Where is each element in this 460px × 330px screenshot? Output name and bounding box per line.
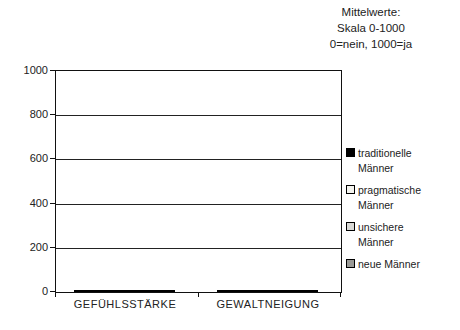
bar-pragmatische-m-nner-gef-hlsst-rke xyxy=(99,290,125,292)
bar-traditionelle-m-nner-gef-hlsst-rke xyxy=(74,290,100,292)
y-axis-tick-200 xyxy=(50,247,55,248)
legend-label-neue-m-nner: neue Männer xyxy=(358,257,436,272)
legend-item-pragmatische-m-nner: pragmatische Männer xyxy=(346,183,458,213)
y-axis-tick-label-400: 400 xyxy=(8,196,48,210)
chart-note-line-2: Skala 0-1000 xyxy=(315,20,427,36)
bar-group-gef-hlsst-rke xyxy=(74,290,175,292)
chart-figure: Mittelwerte: Skala 0-1000 0=nein, 1000=j… xyxy=(0,0,460,330)
legend-label-unsichere-m-nner: unsichere Männer xyxy=(358,220,436,250)
bar-group-gewaltneigung xyxy=(217,290,318,292)
bar-unsichere-m-nner-gewaltneigung xyxy=(267,290,293,292)
x-axis-tick-1 xyxy=(198,292,199,297)
legend-label-pragmatische-m-nner: pragmatische Männer xyxy=(358,183,436,213)
y-axis-tick-label-800: 800 xyxy=(8,107,48,121)
x-axis-tick-0 xyxy=(55,292,56,297)
legend-swatch-traditionelle-m-nner xyxy=(346,148,355,157)
legend-item-neue-m-nner: neue Männer xyxy=(346,257,458,272)
y-axis-tick-400 xyxy=(50,203,55,204)
y-gridline-200 xyxy=(56,248,341,249)
legend-swatch-unsichere-m-nner xyxy=(346,222,355,231)
y-axis-tick-label-600: 600 xyxy=(8,151,48,165)
bar-neue-m-nner-gef-hlsst-rke xyxy=(149,290,175,292)
chart-note-line-1: Mittelwerte: xyxy=(315,4,427,20)
chart-note: Mittelwerte: Skala 0-1000 0=nein, 1000=j… xyxy=(315,4,427,52)
legend-swatch-pragmatische-m-nner xyxy=(346,185,355,194)
plot-area xyxy=(55,70,342,293)
legend-item-unsichere-m-nner: unsichere Männer xyxy=(346,220,458,250)
y-axis-tick-800 xyxy=(50,114,55,115)
x-axis-tick-2 xyxy=(340,292,341,297)
legend: traditionelle Männerpragmatische Männeru… xyxy=(346,146,458,279)
y-gridline-800 xyxy=(56,115,341,116)
y-axis-tick-label-200: 200 xyxy=(8,240,48,254)
y-axis-tick-label-0: 0 xyxy=(8,284,48,298)
x-axis-label-gef-hlsst-rke: GEFÜHLSSTÄRKE xyxy=(74,298,176,310)
bar-neue-m-nner-gewaltneigung xyxy=(292,290,318,292)
bar-unsichere-m-nner-gef-hlsst-rke xyxy=(124,290,150,292)
legend-item-traditionelle-m-nner: traditionelle Männer xyxy=(346,146,458,176)
chart-note-line-3: 0=nein, 1000=ja xyxy=(315,36,427,52)
y-gridline-600 xyxy=(56,159,341,160)
y-axis-tick-1000 xyxy=(50,70,55,71)
legend-label-traditionelle-m-nner: traditionelle Männer xyxy=(358,146,436,176)
bar-pragmatische-m-nner-gewaltneigung xyxy=(242,290,268,292)
legend-swatch-neue-m-nner xyxy=(346,259,355,268)
y-axis-tick-600 xyxy=(50,158,55,159)
y-gridline-400 xyxy=(56,204,341,205)
y-axis-tick-label-1000: 1000 xyxy=(8,63,48,77)
bar-traditionelle-m-nner-gewaltneigung xyxy=(217,290,243,292)
x-axis-label-gewaltneigung: GEWALTNEIGUNG xyxy=(216,298,319,310)
